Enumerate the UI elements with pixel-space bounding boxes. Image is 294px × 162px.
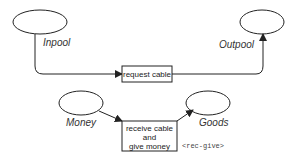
transition-receive-line-3: give money	[129, 142, 170, 151]
arc-receive-goods	[177, 110, 193, 121]
transition-receive-line-2: and	[143, 133, 156, 142]
place-money-label: Money	[66, 117, 97, 128]
transition-annotation: <rec-give>	[182, 142, 224, 150]
place-inpool-label: Inpool	[43, 37, 71, 48]
place-money[interactable]: Money	[59, 91, 103, 128]
transition-receive-cable[interactable]: receive cable and give money	[122, 121, 177, 151]
place-goods-label: Goods	[199, 117, 228, 128]
place-outpool-label: Outpool	[219, 39, 255, 50]
arc-money-receive	[99, 111, 122, 121]
transition-receive-line-1: receive cable	[126, 124, 174, 133]
place-goods[interactable]: Goods	[186, 91, 230, 128]
place-inpool[interactable]: Inpool	[13, 10, 71, 48]
transition-request-cable[interactable]: request cable	[122, 66, 172, 82]
place-outpool[interactable]: Outpool	[219, 10, 284, 50]
petri-net-diagram: Inpool Outpool request cable Money Goods…	[0, 0, 294, 162]
transition-request-cable-label: request cable	[123, 70, 172, 79]
